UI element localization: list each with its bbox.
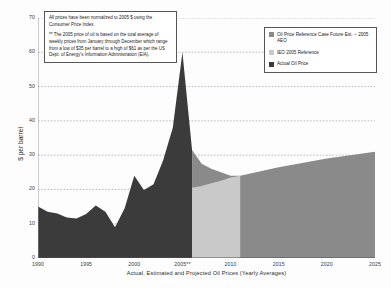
x-tick-label: 2000 — [128, 262, 140, 267]
y-tick-label: 0 — [32, 255, 35, 260]
series-area — [192, 176, 240, 258]
chart-legend: Oil Price Reference Case Future Est. -- … — [264, 27, 377, 73]
y-tick-label: 70 — [29, 15, 35, 20]
x-axis-title: Actual, Estimated and Projected Oil Pric… — [38, 270, 375, 276]
legend-item-actual: Actual Oil Price — [269, 61, 372, 68]
x-tick-label: 2010 — [225, 262, 237, 267]
legend-label-ieo: IEO 2005 Reference — [277, 50, 319, 57]
legend-swatch-ieo — [269, 50, 274, 55]
legend-item-ieo: IEO 2005 Reference — [269, 50, 372, 57]
x-tick-label: 2025 — [369, 262, 381, 267]
y-tick-label: 10 — [29, 221, 35, 226]
legend-label-aeo: Oil Price Reference Case Future Est. -- … — [277, 32, 372, 45]
y-tick-label: 30 — [29, 153, 35, 158]
annotation-note-box: All prices have been normalized to 2005 … — [44, 11, 177, 63]
x-tick-label: 2020 — [321, 262, 333, 267]
x-tick-label: 1990 — [32, 262, 44, 267]
y-tick-label: 50 — [29, 84, 35, 89]
legend-item-aeo: Oil Price Reference Case Future Est. -- … — [269, 32, 372, 45]
y-tick-label: 20 — [29, 187, 35, 192]
y-axis-title: $ per barrel — [17, 127, 24, 161]
x-tick-label: 2005** — [174, 262, 190, 267]
x-tick-label: 2015 — [273, 262, 285, 267]
y-tick-label: 60 — [29, 50, 35, 55]
legend-swatch-aeo — [269, 32, 274, 37]
note-paragraph-2: ** The 2005 price of oil is based on the… — [49, 32, 172, 59]
legend-label-actual: Actual Oil Price — [277, 61, 308, 68]
note-paragraph-1: All prices have been normalized to 2005 … — [49, 15, 172, 29]
data-areas — [38, 52, 375, 258]
x-tick-label: 1995 — [80, 262, 92, 267]
oil-price-chart: $ per barrel 010203040506070 19901995200… — [0, 0, 391, 288]
y-tick-label: 40 — [29, 118, 35, 123]
legend-swatch-actual — [269, 62, 274, 67]
